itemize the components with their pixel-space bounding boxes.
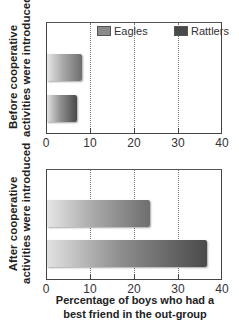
legend-item-eagles: Eagles xyxy=(97,25,148,37)
legend-label-eagles: Eagles xyxy=(114,25,148,37)
ticklabel-20: 20 xyxy=(127,136,140,150)
tick-30 xyxy=(178,128,179,133)
ticklabel-30: 30 xyxy=(171,136,184,150)
tick-20 xyxy=(134,274,135,279)
bar-after-eagles xyxy=(47,200,150,227)
gridline-20 xyxy=(134,23,135,133)
ticklabel-0: 0 xyxy=(43,136,50,150)
legend-item-rattlers: Rattlers xyxy=(174,25,229,37)
x-axis-title: Percentage of boys who had a best friend… xyxy=(40,293,230,321)
panel-top-ylabel: Before cooperative activities were intro… xyxy=(7,17,35,137)
tick-30 xyxy=(178,274,179,279)
tick-10 xyxy=(90,128,91,133)
chart-panel-before: Eagles Rattlers xyxy=(46,22,222,134)
bar-after-rattlers xyxy=(47,240,207,267)
x-axis-ticklabels-top: 0 10 20 30 40 xyxy=(46,136,222,150)
legend-swatch-eagles xyxy=(97,26,111,36)
panel-bottom-ylabel-line2: activities were introduced xyxy=(20,164,33,284)
panel-top-ylabel-line2: activities were introduced xyxy=(20,17,33,137)
ticklabel-10: 10 xyxy=(83,136,96,150)
panel-bottom-ylabel-line1: After cooperative xyxy=(7,164,20,284)
tick-20 xyxy=(134,128,135,133)
gridline-30 xyxy=(178,23,179,133)
legend-swatch-rattlers xyxy=(174,26,188,36)
bar-before-eagles xyxy=(47,54,82,81)
bar-before-rattlers xyxy=(47,95,77,122)
chart-panel-after xyxy=(46,169,222,280)
x-axis-title-line2: best friend in the out-group xyxy=(40,307,230,321)
ticklabel-40: 40 xyxy=(215,136,228,150)
tick-10 xyxy=(90,274,91,279)
legend-label-rattlers: Rattlers xyxy=(191,25,229,37)
panel-top-ylabel-line1: Before cooperative xyxy=(7,17,20,137)
gridline-10 xyxy=(90,23,91,133)
panel-bottom-ylabel: After cooperative activities were introd… xyxy=(7,164,35,284)
x-axis-title-line1: Percentage of boys who had a xyxy=(40,293,230,307)
